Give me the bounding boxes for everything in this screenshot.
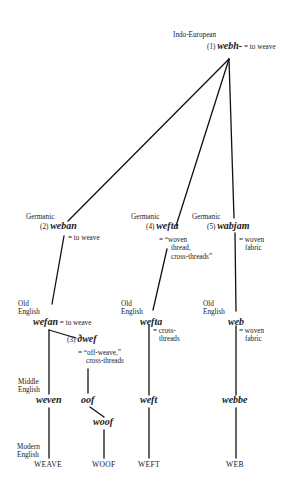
- old-english-entry-wefan: wefan = to weave: [33, 318, 91, 327]
- gloss-line: thread,: [159, 244, 212, 252]
- gloss-line: threads: [153, 335, 180, 343]
- entry-word: wefan: [33, 316, 58, 327]
- branch-weban-wefan: [52, 236, 64, 304]
- stage-line: Modern: [17, 443, 40, 451]
- entry-number: (4): [146, 223, 154, 231]
- middle-english-webbe: webbe: [222, 396, 248, 404]
- stage-label-middle-english: Middle English: [18, 378, 40, 395]
- stage-label-old-english-2: Old English: [121, 300, 143, 317]
- stage-line: Old: [203, 300, 225, 308]
- gloss-line: = “off-weave,”: [78, 349, 124, 357]
- entry-number: (3): [67, 336, 75, 344]
- gloss-line: cross-threads: [78, 357, 124, 365]
- gloss-wabjam: = woven fabric: [239, 236, 264, 253]
- gloss-line: fabric: [239, 244, 264, 252]
- germanic-entry-wabjam: (5) wabjam: [207, 222, 249, 231]
- gloss-wefta-old-english: = cross- threads: [153, 327, 180, 344]
- old-english-entry-web: web: [228, 318, 244, 327]
- gloss-weban: = to weave: [68, 234, 100, 242]
- stage-line: Middle: [18, 378, 40, 386]
- entry-word: wefta: [140, 316, 162, 327]
- gloss-line: = woven: [239, 327, 264, 335]
- modern-english-weft: WEFT: [138, 461, 160, 469]
- root-gloss: = to weave: [244, 43, 276, 51]
- old-english-entry-wefta: wefta: [140, 318, 162, 327]
- middle-english-woof: woof: [93, 418, 113, 426]
- gloss-oswef: = “off-weave,” cross-threads: [78, 349, 124, 366]
- entry-word: web: [228, 316, 244, 327]
- middle-english-weven: weven: [36, 396, 62, 404]
- stage-label-modern-english: Modern English: [17, 443, 40, 460]
- stage-line: Old: [121, 300, 143, 308]
- germanic-entry-wefta: (4) wefta: [146, 222, 178, 231]
- branch-webh-weban: [68, 59, 229, 221]
- modern-english-web: WEB: [226, 461, 244, 469]
- entry-word: wabjam: [217, 220, 249, 231]
- gloss-line: = “woven: [159, 236, 212, 244]
- gloss-line: fabric: [239, 335, 264, 343]
- gloss-line: = cross-: [153, 327, 180, 335]
- stage-line: English: [203, 308, 225, 316]
- stage-label-old-english-3: Old English: [203, 300, 225, 317]
- gloss-line: = woven: [239, 236, 264, 244]
- stage-line: English: [17, 451, 40, 459]
- modern-english-weave: WEAVE: [34, 461, 62, 469]
- stage-label-indo-european: Indo-European: [173, 31, 216, 39]
- entry-gloss: = to weave: [60, 319, 92, 327]
- old-english-entry-oswef: (3) ðwef: [67, 335, 97, 344]
- root-entry: (1) webh- = to weave: [207, 42, 276, 51]
- root-word: webh-: [217, 40, 242, 51]
- entry-word: weban: [50, 220, 77, 231]
- branch-wabjam-web: [235, 233, 236, 311]
- middle-english-weft: weft: [140, 396, 157, 404]
- modern-english-woof: WOOF: [92, 461, 116, 469]
- root-number: (1): [207, 43, 215, 51]
- entry-number: (2): [40, 223, 48, 231]
- branch-webh-wefta: [176, 59, 229, 226]
- entry-word: ðwef: [77, 333, 96, 344]
- gloss-web: = woven fabric: [239, 327, 264, 344]
- stage-line: Old: [18, 300, 40, 308]
- middle-english-oof: oof: [81, 396, 94, 404]
- germanic-entry-weban: (2) weban: [40, 222, 77, 231]
- gloss-wefta-germanic: = “woven thread, cross-threads”: [159, 236, 212, 261]
- branch-webh-wabjam: [229, 59, 234, 218]
- entry-word: wefta: [156, 220, 178, 231]
- entry-number: (5): [207, 223, 215, 231]
- stage-label-old-english-1: Old English: [18, 300, 40, 317]
- gloss-line: cross-threads”: [159, 253, 212, 261]
